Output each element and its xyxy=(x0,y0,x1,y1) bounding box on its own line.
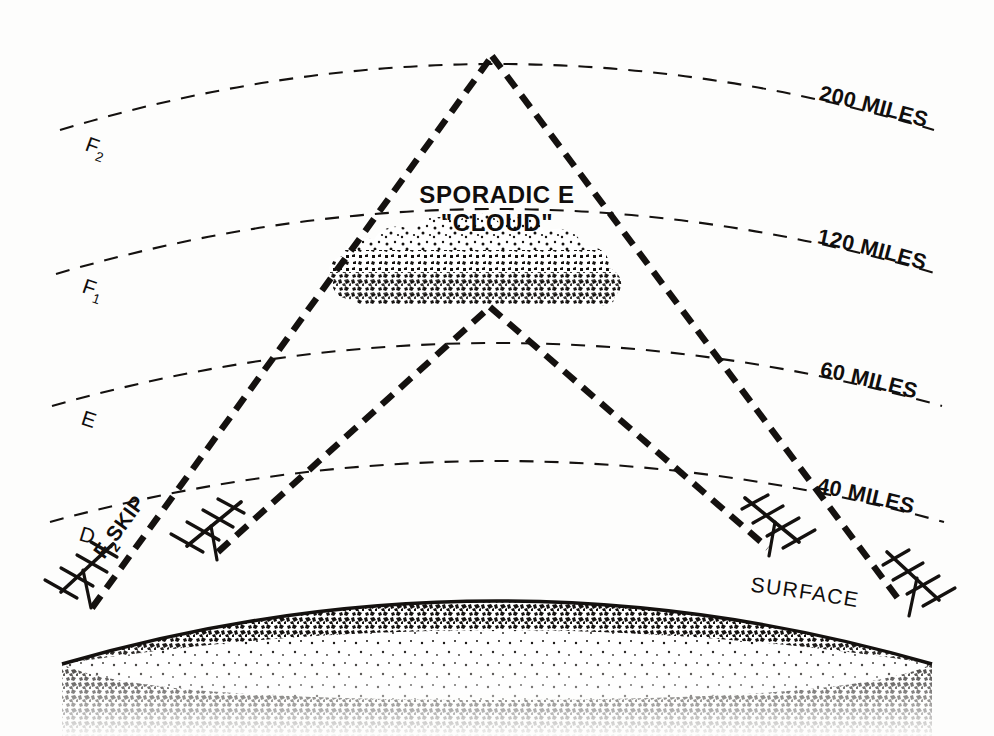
ionosphere-diagram: 200 MILES F 2 120 MILES F 1 60 MILES E xyxy=(0,0,994,736)
antenna-inner-right xyxy=(742,495,815,556)
antenna-far-left xyxy=(45,542,117,608)
arc-200-miles xyxy=(60,64,934,130)
antenna-mast xyxy=(83,570,91,608)
arc-label-200-miles: 200 MILES xyxy=(817,81,931,132)
antenna-mast xyxy=(211,526,217,560)
arc-group-40-miles: 40 MILES D xyxy=(50,461,944,548)
antenna-far-right xyxy=(883,550,955,616)
antenna-boom-group xyxy=(45,542,117,598)
layer-label-e-text: E xyxy=(79,406,99,432)
surface-label: SURFACE xyxy=(750,573,862,612)
f2-skip-label: F 2 SKIP xyxy=(89,491,154,565)
earth-body xyxy=(62,601,932,736)
sporadic-e-title-line1: SPORADIC E xyxy=(419,181,574,208)
arc-60-miles xyxy=(52,343,942,406)
layer-label-f1: F 1 xyxy=(78,274,107,307)
antenna-inner-left xyxy=(171,499,244,560)
arc-label-60-miles: 60 MILES xyxy=(818,357,920,403)
antenna-element-2 xyxy=(61,568,93,586)
antenna-boom-group xyxy=(171,499,244,552)
arc-40-miles xyxy=(50,461,944,522)
earth-group: SURFACE xyxy=(62,573,932,736)
antenna-mast xyxy=(769,522,775,556)
layer-label-e: E xyxy=(79,406,99,432)
antenna-mast xyxy=(909,578,917,616)
sporadic-e-title-line2: "CLOUD" xyxy=(441,209,553,236)
arc-group-60-miles: 60 MILES E xyxy=(52,343,942,432)
f2-skip-path-up xyxy=(92,56,492,608)
layer-label-f2: F 2 xyxy=(81,132,110,165)
antenna-boom-group xyxy=(742,495,815,548)
sporadic-e-cloud-group: SPORADIC E "CLOUD" xyxy=(320,181,630,310)
arc-label-120-miles: 120 MILES xyxy=(816,225,930,275)
antenna-element-2 xyxy=(907,576,939,594)
arc-group-200-miles: 200 MILES F 2 xyxy=(60,64,934,165)
f2-skip-path-down xyxy=(492,56,902,604)
diagram-canvas: 200 MILES F 2 120 MILES F 1 60 MILES E xyxy=(0,0,994,736)
sporadic-e-path-down xyxy=(490,307,768,548)
